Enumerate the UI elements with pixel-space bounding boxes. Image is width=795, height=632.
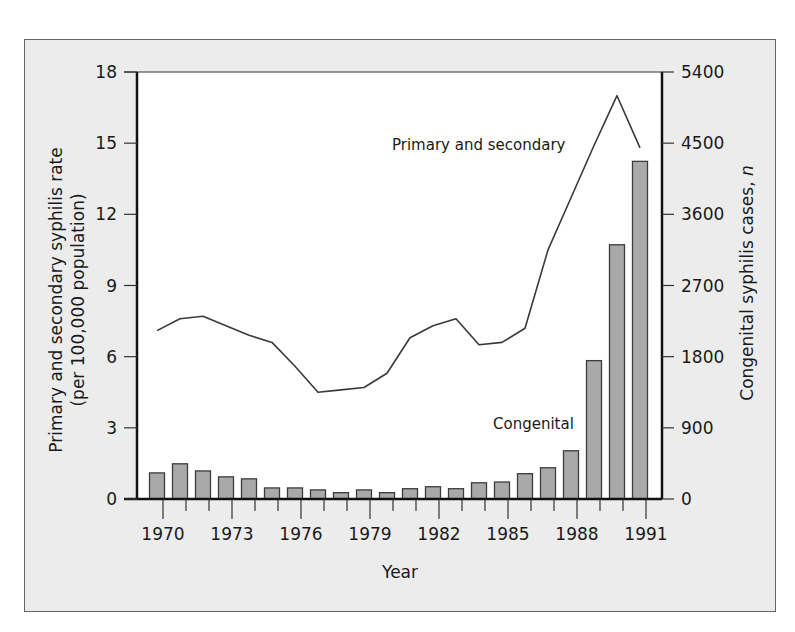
x-tick-label: 1973 [210,524,253,544]
bar-annotation: Congenital [493,415,574,433]
left-tick-label: 9 [106,276,117,296]
right-tick-label: 900 [681,418,713,438]
x-tick-label: 1976 [279,524,322,544]
left-tick-label: 3 [106,418,117,438]
bar-1991 [633,161,648,499]
right-tick-label: 5400 [681,62,724,82]
svg-text:Congenital syphilis cases, n: Congenital syphilis cases, n [737,165,757,400]
x-tick-label: 1988 [555,524,598,544]
bar-1971 [173,464,188,499]
left-tick-label: 15 [95,133,117,153]
bar-1976 [288,488,303,499]
bar-1979 [357,490,372,499]
x-tick-label: 1982 [417,524,460,544]
left-tick-label: 0 [106,489,117,509]
x-axis-title: Year [381,562,418,582]
x-tick-label: 1970 [141,524,184,544]
bar-1981 [403,489,418,499]
left-axis-title-line1: Primary and secondary syphilis rate [46,147,66,452]
line-annotation: Primary and secondary [392,136,566,154]
bar-1989 [587,361,602,499]
x-tick-label: 1985 [486,524,529,544]
right-axis-title: Congenital syphilis cases, n [737,165,757,400]
bar-1986 [518,474,533,499]
left-axis-title-line2: (per 100,000 population) [68,193,88,406]
left-axis-ticks: 0369121518 [95,62,137,509]
right-tick-label: 2700 [681,276,724,296]
bar-1984 [472,483,487,499]
right-tick-label: 3600 [681,204,724,224]
bar-1982 [426,487,441,499]
right-axis-title-main: Congenital syphilis cases, [737,176,757,401]
right-axis-title-italic: n [737,165,757,176]
right-tick-label: 1800 [681,347,724,367]
bar-1983 [449,489,464,499]
right-tick-label: 0 [681,489,692,509]
bar-1990 [610,245,625,499]
x-tick-label: 1991 [624,524,667,544]
bar-1988 [564,451,579,499]
left-axis-title: Primary and secondary syphilis rate (per… [46,147,88,452]
left-tick-label: 12 [95,204,117,224]
bar-1973 [219,477,234,499]
bar-1985 [495,482,510,499]
x-tick-label: 1979 [348,524,391,544]
bar-1974 [242,479,257,499]
bar-1972 [196,471,211,499]
bar-1987 [541,468,556,499]
bar-1977 [311,490,326,499]
bar-1970 [150,473,165,499]
right-tick-label: 4500 [681,133,724,153]
bar-1975 [265,488,280,499]
chart: 0369121518 090018002700360045005400 1970… [0,0,795,632]
left-tick-label: 6 [106,347,117,367]
x-axis-ticks: 19701973197619791982198519881991 [141,499,667,544]
right-axis-ticks: 090018002700360045005400 [662,62,724,509]
left-tick-label: 18 [95,62,117,82]
